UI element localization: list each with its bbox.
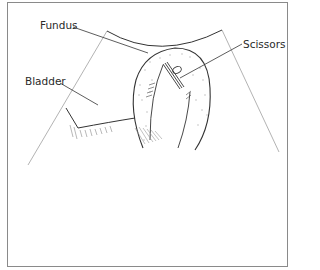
label-leader-lines: [60, 27, 242, 105]
label-bladder: Bladder: [25, 76, 66, 87]
bladder-hatching: [70, 125, 112, 139]
bladder-outline: [66, 108, 135, 128]
cavity-marks: [146, 83, 191, 99]
label-fundus: Fundus: [40, 20, 78, 31]
uterus-outline: [133, 48, 210, 150]
label-scissors: Scissors: [243, 39, 286, 50]
cavity-left-wall: [150, 65, 163, 140]
fundus-outline: [107, 30, 222, 46]
scissors-instrument: [163, 62, 184, 89]
cavity-right-wall: [178, 92, 190, 148]
uterus-stipple: [138, 53, 207, 140]
